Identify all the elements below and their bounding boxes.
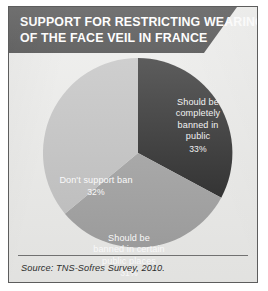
pie-svg [43,58,233,248]
source-divider [18,255,248,256]
pie-graphic [43,58,233,248]
source-note: Source: TNS-Sofres Survey, 2010. [21,263,241,273]
page-title-line-2: of the face veil in France [20,30,216,46]
page-title: Support for restricting wearing of the f… [20,14,216,46]
figure-card: Support for restricting wearing of the f… [8,6,258,283]
pie-chart: Should be completely banned in public 33… [9,53,257,239]
page-title-line-1: Support for restricting wearing [20,14,216,30]
